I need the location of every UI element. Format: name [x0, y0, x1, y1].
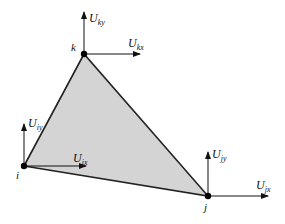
label-U-ky: Uky [89, 11, 105, 27]
triangle-element-diagram: k Uky Ukx i Uiy Uix j Ujy Ujx [0, 0, 285, 224]
node-k-dot [81, 51, 87, 57]
node-j: j Ujy Ujx [202, 147, 271, 213]
label-U-iy: Uiy [28, 116, 43, 132]
triangle-element [24, 54, 208, 196]
label-U-kx: Ukx [128, 36, 144, 52]
node-k: k Uky Ukx [71, 11, 144, 57]
node-j-label: j [202, 201, 207, 213]
label-U-jx: Ujx [256, 178, 271, 194]
node-j-dot [205, 193, 211, 199]
node-k-label: k [71, 41, 77, 53]
node-i-label: i [16, 169, 19, 181]
label-U-jy: Ujy [212, 147, 227, 163]
node-i-dot [21, 163, 27, 169]
